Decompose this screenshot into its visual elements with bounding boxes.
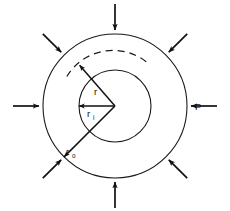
radius-label-r: r <box>94 86 97 97</box>
radius-label-ri-base: r <box>87 108 90 119</box>
radius-label-ro-base: r <box>66 146 69 157</box>
pressure-label: P <box>195 101 201 112</box>
pressure-arrow-southeast <box>169 160 187 178</box>
pressure-arrow-northeast <box>169 34 187 52</box>
radius-label-ri-subscript: i <box>93 114 94 121</box>
gauge-arc-visible <box>67 50 148 76</box>
radius-label-ri-group: r i <box>87 108 94 121</box>
radius-label-ro-subscript: o <box>72 152 76 159</box>
cylinder-pressure-diagram: P r r i r o <box>0 0 230 211</box>
pressure-arrow-southwest <box>43 160 61 178</box>
pressure-arrow-northwest <box>43 34 61 52</box>
radius-label-ro-group: r o <box>66 146 76 159</box>
figure-root: P r r i r o <box>0 0 230 211</box>
